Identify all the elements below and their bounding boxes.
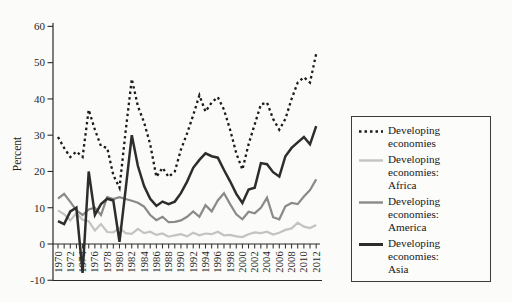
y-tick-label: 60 xyxy=(34,20,46,32)
x-tick-label: 2002 xyxy=(249,251,260,273)
legend-item: Developing economies:Asia xyxy=(359,237,485,275)
plot-area: 6050403020100-10197019721974197619781980… xyxy=(30,20,322,286)
x-tick-label: 2004 xyxy=(261,250,272,272)
x-tick-label: 2010 xyxy=(298,251,309,273)
series-line-developing-economies xyxy=(58,54,316,188)
legend-line-sample-solid xyxy=(359,199,383,206)
x-tick-label: 1984 xyxy=(139,250,150,272)
x-tick-label: 2000 xyxy=(237,251,248,273)
legend-line-sample-dotted xyxy=(359,128,383,135)
x-tick-label: 1970 xyxy=(53,251,64,273)
x-tick-label: 1982 xyxy=(126,251,137,273)
x-tick-label: 2008 xyxy=(286,251,297,273)
y-tick-label: 20 xyxy=(34,165,46,177)
x-tick-label: 1976 xyxy=(89,251,100,273)
y-tick-label: 30 xyxy=(34,129,46,141)
x-tick-label: 2006 xyxy=(274,251,285,273)
x-tick-label: 1972 xyxy=(65,251,76,273)
legend-label: Developing economies:Africa xyxy=(388,153,485,191)
y-tick-label: 50 xyxy=(34,56,46,68)
y-tick-label: -10 xyxy=(30,274,45,286)
y-tick-label: 0 xyxy=(40,238,46,250)
x-tick-label: 2012 xyxy=(311,251,322,273)
x-tick-label: 1994 xyxy=(200,250,211,272)
series-line-developing-economies-africa xyxy=(58,210,316,237)
x-tick-label: 1996 xyxy=(212,251,223,273)
x-tick-label: 1978 xyxy=(102,251,113,273)
x-tick-label: 1986 xyxy=(151,251,162,273)
y-tick-label: 10 xyxy=(34,202,46,214)
legend-item: Developing economies xyxy=(359,124,485,149)
y-axis-label: Percent xyxy=(11,136,23,171)
legend-item: Developing economies:America xyxy=(359,195,485,233)
x-tick-label: 1992 xyxy=(188,251,199,273)
legend-label: Developing economies:America xyxy=(388,195,485,233)
x-tick-label: 1988 xyxy=(163,251,174,273)
legend-item: Developing economies:Africa xyxy=(359,153,485,191)
y-tick-label: 40 xyxy=(34,93,46,105)
series-line-developing-economies-america xyxy=(58,179,316,222)
legend-box: Developing economiesDeveloping economies… xyxy=(351,116,491,282)
legend-label: Developing economies:Asia xyxy=(388,237,485,275)
x-tick-label: 1998 xyxy=(225,251,236,273)
legend-line-sample-solid xyxy=(359,241,383,248)
x-tick-label: 1980 xyxy=(114,251,125,273)
legend-line-sample-solid xyxy=(359,157,383,164)
figure: Percent 6050403020100-101970197219741976… xyxy=(0,0,512,302)
x-tick-label: 1990 xyxy=(175,251,186,273)
series-line-developing-economies-asia xyxy=(58,126,316,273)
legend-label: Developing economies xyxy=(388,124,485,149)
